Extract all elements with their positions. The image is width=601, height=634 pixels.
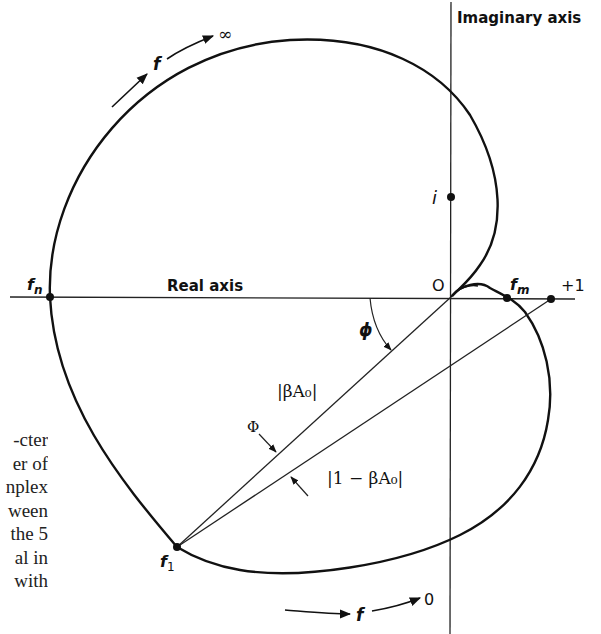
- freq-end-zero: 0: [424, 590, 434, 609]
- phi-large-arrow-in: [259, 434, 276, 452]
- one-minus-beta-a0-label: |1 − βA₀|: [327, 468, 403, 488]
- phi-large-label: Φ: [247, 418, 259, 436]
- freq-label-top: f: [153, 54, 163, 74]
- plus-one-label: +1: [561, 276, 585, 295]
- nyquist-diagram: Imaginary axis Real axis O +1 i fn fm f1…: [0, 0, 601, 634]
- freq-end-infinity: ∞: [218, 24, 232, 44]
- phi-angle-arc: [370, 298, 391, 350]
- point-f-1: [173, 543, 181, 551]
- phi-large-arrow-out: [291, 477, 308, 496]
- real-axis-label: Real axis: [167, 277, 243, 295]
- freq-arrow-bottom-2: [372, 598, 420, 611]
- beta-a0-label: |βA₀|: [277, 381, 317, 401]
- imaginary-axis-label: Imaginary axis: [457, 9, 581, 27]
- phi-small-label: ϕ: [359, 320, 373, 340]
- point-plus-one: [547, 295, 555, 303]
- vector-beta-a0: [177, 297, 451, 547]
- freq-arrow-bottom-1: [285, 610, 350, 614]
- nyquist-curve: [50, 40, 498, 547]
- point-f-m: [503, 294, 511, 302]
- freq-arrow-top-2: [167, 36, 213, 59]
- origin-label: O: [432, 276, 445, 295]
- freq-arrow-top-1: [112, 74, 147, 107]
- i-label: i: [432, 187, 437, 208]
- f-m-label: fm: [510, 275, 529, 297]
- freq-label-bottom: f: [356, 605, 366, 625]
- real-axis: [10, 297, 575, 299]
- point-f-n: [46, 293, 54, 301]
- point-i: [447, 193, 455, 201]
- f-n-label: fn: [27, 275, 43, 297]
- f-1-label: f1: [160, 552, 175, 574]
